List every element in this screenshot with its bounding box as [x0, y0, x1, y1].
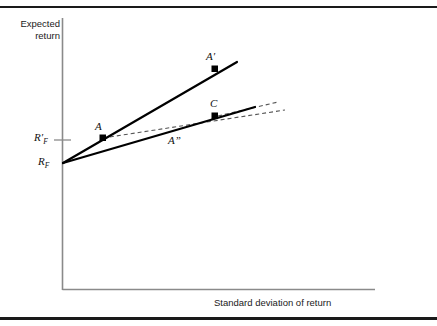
label-point-a-prime: A′	[206, 50, 215, 62]
data-point-c	[212, 113, 219, 120]
line-rf-to-a-prime	[63, 62, 237, 163]
label-point-a-prime-mark: ′	[213, 50, 215, 62]
data-point-a	[100, 135, 107, 142]
label-point-a-double-prime-base: A	[168, 134, 175, 146]
line-rf-to-c	[63, 107, 255, 163]
label-rf-prime-subscript: F	[43, 137, 48, 146]
label-point-a-double-prime-mark: ”	[175, 134, 181, 146]
label-point-a-double-prime: A”	[168, 134, 181, 146]
label-point-a: A	[95, 120, 102, 132]
label-rf: RF	[38, 155, 49, 170]
label-point-a-prime-base: A	[206, 50, 213, 62]
y-axis-label: Expected return	[8, 18, 60, 41]
chart-plot-area	[0, 0, 437, 326]
label-point-c: C	[210, 97, 217, 109]
x-axis-label: Standard deviation of return	[214, 297, 331, 309]
label-rf-subscript: F	[45, 161, 50, 170]
data-point-a-prime	[212, 66, 219, 73]
label-rf-prime: R′F	[34, 131, 48, 146]
label-rf-prime-base: R	[34, 131, 41, 143]
figure-root: Expected return Standard deviation of re…	[0, 0, 437, 326]
label-rf-base: R	[38, 155, 45, 167]
